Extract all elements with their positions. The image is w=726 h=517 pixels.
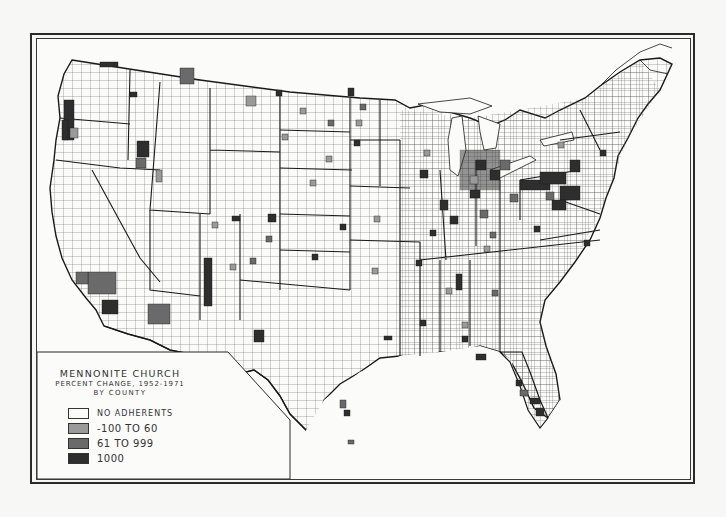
legend-item-no-adherents: NO ADHERENTS bbox=[68, 406, 173, 421]
legend-item-1000: 1000 bbox=[68, 451, 173, 466]
legend-item-61-to-999: 61 TO 999 bbox=[68, 436, 173, 451]
legend-label: 1000 bbox=[97, 453, 124, 464]
legend-label: NO ADHERENTS bbox=[97, 409, 173, 418]
legend: NO ADHERENTS -100 TO 60 61 TO 999 1000 bbox=[68, 406, 173, 466]
map-subtitle: PERCENT CHANGE, 1952-1971 bbox=[40, 380, 200, 388]
map-title: MENNONITE CHURCH bbox=[40, 368, 200, 379]
swatch-no-adherents bbox=[68, 408, 89, 419]
swatch-mid bbox=[68, 438, 89, 449]
legend-item-neg100-to-60: -100 TO 60 bbox=[68, 421, 173, 436]
legend-title-block: MENNONITE CHURCH PERCENT CHANGE, 1952-19… bbox=[40, 368, 200, 397]
legend-label: 61 TO 999 bbox=[97, 438, 154, 449]
legend-label: -100 TO 60 bbox=[97, 423, 158, 434]
swatch-dark bbox=[68, 453, 89, 464]
map-subtitle-by-county: BY COUNTY bbox=[40, 389, 200, 397]
swatch-light bbox=[68, 423, 89, 434]
